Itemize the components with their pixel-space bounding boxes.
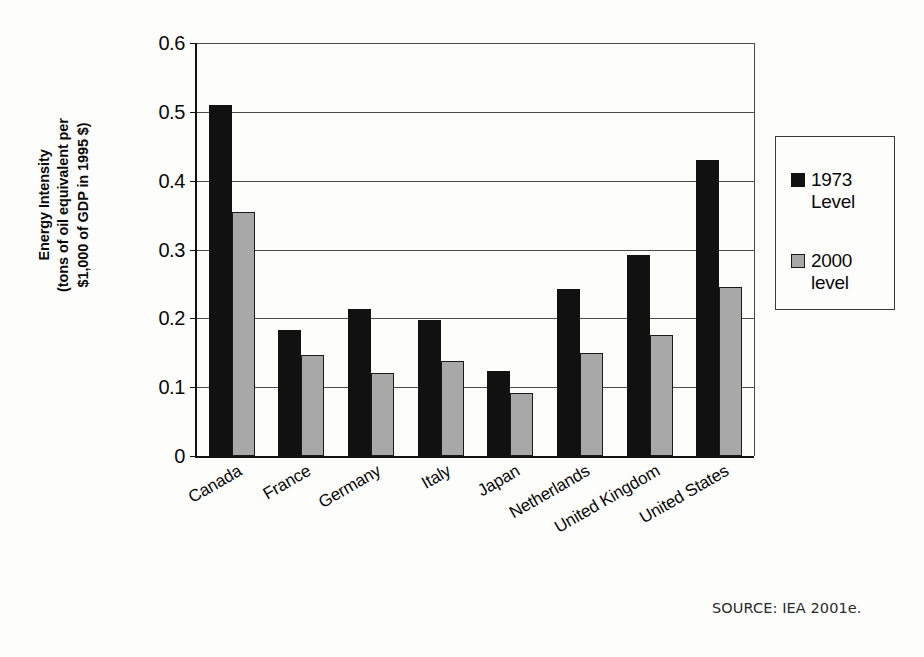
bar [301,355,324,456]
y-tick-mark [190,112,197,113]
x-axis-label: Italy [419,462,454,492]
x-axis-label: France [261,462,314,503]
x-axis-category-labels: CanadaFranceGermanyItalyJapanNetherlands… [195,462,752,582]
bar [557,289,580,456]
bar [418,320,441,456]
bar [441,361,464,456]
y-tick-label: 0.2 [158,308,185,328]
bar [580,353,603,456]
bar [487,371,510,456]
bar [650,335,673,456]
y-tick-mark [190,387,197,388]
legend: 1973 Level 2000 level [775,136,895,310]
bar-group [557,43,603,456]
y-tick-mark [190,43,197,44]
bar [371,373,394,456]
y-axis-title: Energy Intensity (tons of oil equivalent… [35,55,95,355]
y-tick-mark [190,181,197,182]
y-tick-label: 0.1 [158,377,185,397]
bar-group [696,43,742,456]
legend-label-2000: 2000 level [811,250,852,294]
bar [278,330,301,456]
y-tick-label: 0.4 [158,171,185,191]
legend-swatch-icon-2000 [791,254,805,268]
bar-group [209,43,255,456]
y-tick-label: 0.3 [158,240,185,260]
source-note: SOURCE: IEA 2001e. [712,600,862,616]
bar-group [278,43,324,456]
bar-group [487,43,533,456]
legend-swatch-icon-1973 [791,173,805,187]
y-tick-label: 0.5 [158,102,185,122]
bar [232,212,255,456]
bar [209,105,232,456]
plot-area: 0.60.50.40.30.20.10 [195,43,754,458]
bar [719,287,742,456]
x-axis-label: Germany [316,462,384,511]
bar-group [418,43,464,456]
legend-label-1973: 1973 Level [811,169,855,213]
bar-group [627,43,673,456]
energy-intensity-bar-chart: Energy Intensity (tons of oil equivalent… [0,0,924,657]
plot-right-border [754,43,755,456]
bar [696,160,719,456]
x-axis-label: Japan [475,462,523,499]
bar-group [348,43,394,456]
y-tick-label: 0 [174,446,185,466]
x-axis-label: Canada [185,462,244,506]
bar [510,393,533,456]
y-tick-mark [190,456,197,457]
legend-item-2000: 2000 level [791,250,852,294]
bar [627,255,650,456]
y-tick-label: 0.6 [158,33,185,53]
y-tick-mark [190,318,197,319]
bar [348,309,371,456]
legend-item-1973: 1973 Level [791,169,855,213]
y-tick-mark [190,250,197,251]
bars-layer [197,43,754,456]
